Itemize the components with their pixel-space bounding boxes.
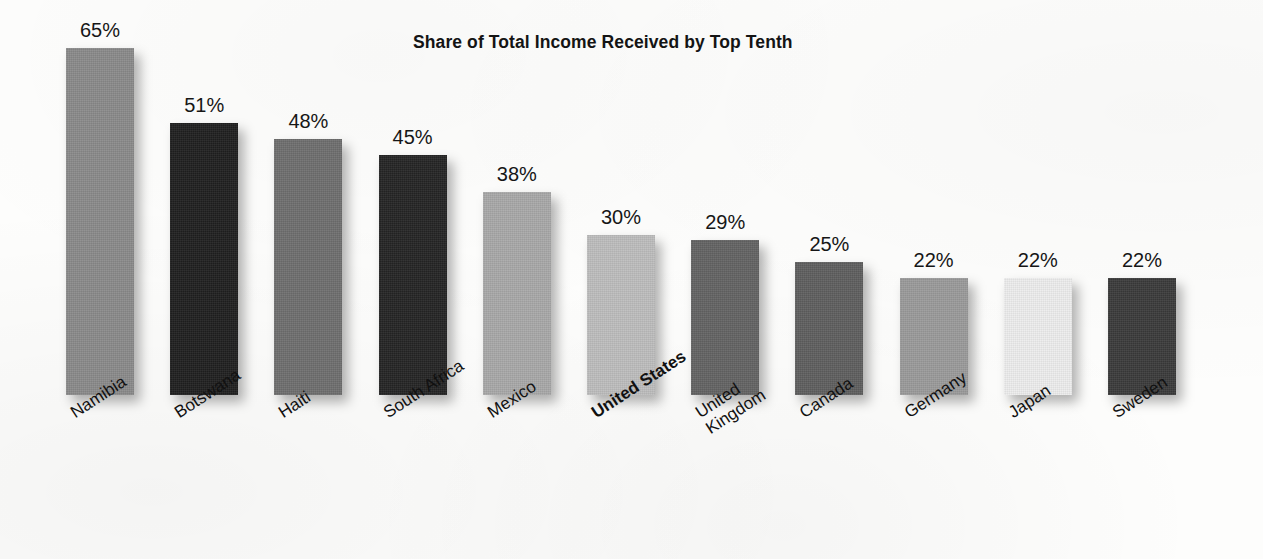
bar-group[interactable]: 25%: [795, 262, 863, 396]
bar-value-label: 22%: [914, 249, 954, 272]
bar[interactable]: [795, 262, 863, 396]
bar-group[interactable]: 48%: [274, 139, 342, 395]
bar-value-label: 25%: [809, 233, 849, 256]
bar[interactable]: [483, 192, 551, 395]
bar-group[interactable]: 22%: [1004, 278, 1072, 395]
bar-group[interactable]: 45%: [379, 155, 447, 395]
bar[interactable]: [1108, 278, 1176, 395]
bar-value-label: 48%: [288, 110, 328, 133]
bar-value-label: 30%: [601, 206, 641, 229]
bar[interactable]: [1004, 278, 1072, 395]
bar-value-label: 65%: [80, 19, 120, 42]
bar-value-label: 51%: [184, 94, 224, 117]
bar-group[interactable]: 51%: [170, 123, 238, 395]
bar[interactable]: [170, 123, 238, 395]
bar-group[interactable]: 22%: [1108, 278, 1176, 395]
bar-value-label: 38%: [497, 163, 537, 186]
bar-value-label: 29%: [705, 211, 745, 234]
bar-group[interactable]: 65%: [66, 48, 134, 395]
bar-value-label: 22%: [1018, 249, 1058, 272]
bar-group[interactable]: 38%: [483, 192, 551, 395]
bar-value-label: 45%: [393, 126, 433, 149]
bar[interactable]: [379, 155, 447, 395]
plot-area: 65%Namibia51%Botswana48%Haiti45%South Af…: [0, 0, 1263, 559]
bar[interactable]: [66, 48, 134, 395]
bar-value-label: 22%: [1122, 249, 1162, 272]
bar[interactable]: [274, 139, 342, 395]
chart-container: Share of Total Income Received by Top Te…: [0, 0, 1263, 559]
